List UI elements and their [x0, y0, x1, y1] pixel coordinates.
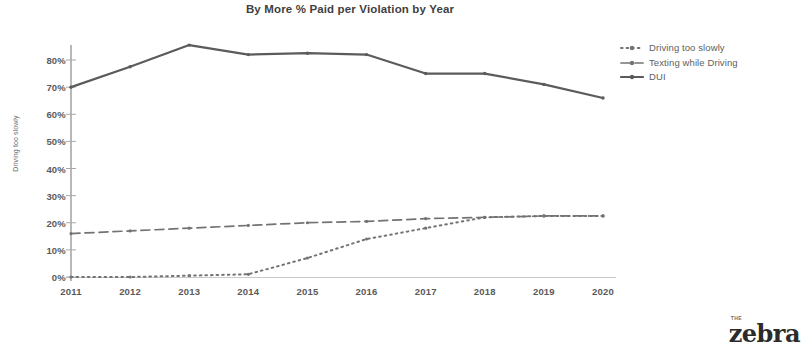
chart-legend: Driving too slowlyTexting while DrivingD… [620, 42, 800, 86]
series-point [542, 83, 545, 86]
y-axis-tick-label: 50% [24, 136, 66, 147]
series-point [69, 85, 72, 88]
y-axis-tick-label: 10% [24, 244, 66, 255]
x-axis-tick-label: 2012 [100, 286, 160, 297]
series-point [601, 96, 604, 99]
y-axis-tick-label: 20% [24, 217, 66, 228]
x-axis-tick-label: 2019 [514, 286, 574, 297]
x-axis-tick-label: 2020 [573, 286, 633, 297]
series-point [247, 53, 250, 56]
series-point [365, 237, 368, 240]
series-line-texting-while-driving [71, 216, 603, 234]
legend-item-label: Texting while Driving [649, 57, 738, 70]
y-axis-tick-label: 0% [24, 272, 66, 283]
series-point [306, 256, 309, 259]
series-point [483, 72, 486, 75]
legend-item[interactable]: DUI [620, 71, 800, 84]
x-axis-tick-label: 2013 [159, 286, 219, 297]
y-axis-title: Driving too slowly [12, 89, 19, 199]
x-axis-tick-label: 2014 [218, 286, 278, 297]
chart-screenshot: By More % Paid per Violation by Year 0%1… [0, 0, 812, 352]
series-point [129, 229, 132, 232]
y-axis-tick-label: 80% [24, 55, 66, 66]
series-point [188, 43, 191, 46]
legend-item-label: DUI [649, 71, 666, 84]
series-point [542, 214, 545, 217]
series-point [188, 227, 191, 230]
legend-item[interactable]: Driving too slowly [620, 42, 800, 55]
brand-name: zebra [729, 322, 800, 346]
series-line-driving-too-slowly [71, 216, 603, 277]
series-point [306, 221, 309, 224]
series-point [483, 216, 486, 219]
solid-line-marker [620, 71, 644, 83]
series-line-dui [71, 45, 603, 98]
legend-item-label: Driving too slowly [649, 42, 725, 55]
brand-logo: THE zebra [729, 316, 800, 346]
x-axis-tick-label: 2016 [337, 286, 397, 297]
x-axis-tick-label: 2011 [41, 286, 101, 297]
series-point [424, 72, 427, 75]
series-point [247, 273, 250, 276]
y-axis-tick-label: 70% [24, 82, 66, 93]
series-point [129, 275, 132, 278]
series-point [69, 275, 72, 278]
series-point [306, 52, 309, 55]
y-axis-tick-label: 30% [24, 190, 66, 201]
y-axis-tick-label: 40% [24, 163, 66, 174]
x-axis-tick-label: 2017 [396, 286, 456, 297]
y-axis-tick-label: 60% [24, 109, 66, 120]
x-axis-tick-label: 2015 [277, 286, 337, 297]
data-series-layer [69, 43, 604, 278]
x-axis-tick-labels: 2011201220132014201520162017201820192020 [0, 286, 812, 302]
series-point [365, 53, 368, 56]
series-point [601, 214, 604, 217]
series-point [424, 217, 427, 220]
series-point [188, 274, 191, 277]
dotted-line-marker [620, 42, 644, 54]
series-point [424, 227, 427, 230]
series-point [128, 65, 131, 68]
series-point [365, 220, 368, 223]
x-axis-tick-label: 2018 [455, 286, 515, 297]
dashed-line-marker [620, 57, 644, 69]
series-point [69, 232, 72, 235]
legend-item[interactable]: Texting while Driving [620, 57, 800, 70]
series-point [247, 224, 250, 227]
